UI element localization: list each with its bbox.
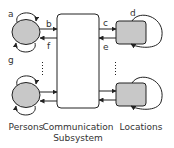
edge-label-b: b [46,19,52,29]
label-persons: Persons [9,122,44,132]
label-subsystem: Subsystem [53,133,103,143]
diagram-canvas: a b f g c d e Persons Communication Subs… [0,0,174,148]
edge-label-e: e [103,42,109,52]
label-locations: Locations [120,122,163,132]
location-node-top [116,21,146,44]
edge-label-g: g [8,55,14,65]
location-node-bottom [116,83,146,106]
edge-label-f: f [47,41,51,51]
ellipsis-dots-left [42,62,43,75]
label-communication: Communication [43,122,114,132]
communication-subsystem-node [57,14,99,108]
person-node-bottom [12,83,40,108]
edge-label-a: a [8,9,14,19]
ellipsis-dots-right [115,62,116,75]
edge-label-d: d [130,8,136,18]
edge-label-c: c [103,18,108,28]
person-node-top [12,20,40,45]
